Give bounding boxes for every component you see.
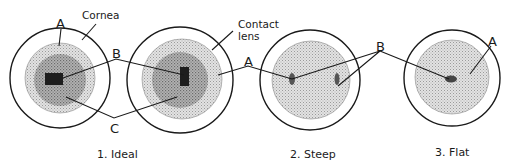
- caption-steep: 2. Steep: [290, 148, 336, 161]
- label-b-steep-flat: B: [376, 39, 385, 54]
- label-a-flat: A: [488, 34, 497, 49]
- touch-mark-right: [335, 73, 340, 85]
- caption-flat: 3. Flat: [435, 146, 470, 159]
- label-a-steep: A: [244, 54, 253, 69]
- eye-ideal-right: [127, 27, 233, 133]
- label-a-ideal: A: [56, 16, 65, 31]
- label-b-ideal: B: [112, 46, 121, 61]
- label-contact-lens-line1: Contact: [238, 18, 279, 30]
- apical-touch-mark: [180, 67, 189, 86]
- eye-flat: [404, 30, 500, 126]
- contact-lens-fit-diagram: A Cornea B C Contact lens A B A 1. Ideal…: [0, 0, 505, 168]
- apical-touch-mark: [45, 73, 63, 85]
- label-contact-lens-line2: lens: [238, 30, 260, 42]
- label-c-ideal: C: [110, 121, 119, 136]
- caption-ideal: 1. Ideal: [97, 148, 138, 161]
- eye-ideal-left: [10, 28, 110, 128]
- central-touch-mark: [445, 76, 457, 83]
- label-cornea: Cornea: [82, 9, 119, 21]
